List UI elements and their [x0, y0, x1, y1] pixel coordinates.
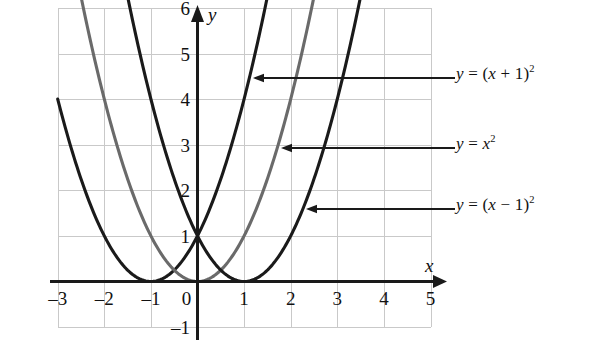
y-tick-label: 4: [181, 89, 191, 110]
x-tick-label: 3: [333, 288, 343, 309]
y-tick-label: 2: [181, 180, 191, 201]
annotation-label-y-eq-x-minus-1-squared: y = (x − 1)2: [456, 195, 535, 215]
parabola-translation-graph: –3–2–1012345 –1123456 x y: [0, 0, 593, 359]
annotation-label-y-eq-x-plus-1-squared: y = (x + 1)2: [456, 64, 535, 84]
x-axis-label: x: [424, 255, 434, 276]
y-tick-label: 1: [181, 226, 191, 247]
y-tick-label: 6: [181, 0, 191, 19]
x-tick-label: –1: [140, 288, 160, 309]
y-axis-label: y: [206, 4, 217, 25]
y-tick-label: 5: [181, 44, 191, 65]
x-tick-label: 5: [426, 288, 436, 309]
x-tick-label: –2: [94, 288, 114, 309]
x-tick-label: 4: [379, 288, 389, 309]
annotation-label-y-eq-x-squared: y = x2: [456, 134, 496, 154]
x-tick-label: 1: [239, 288, 249, 309]
y-tick-label: –1: [170, 317, 190, 338]
x-tick-label: –3: [47, 288, 67, 309]
x-tick-label: 0: [182, 288, 192, 309]
x-tick-label: 2: [286, 288, 296, 309]
y-tick-label: 3: [181, 135, 191, 156]
figure-background: [0, 0, 593, 359]
